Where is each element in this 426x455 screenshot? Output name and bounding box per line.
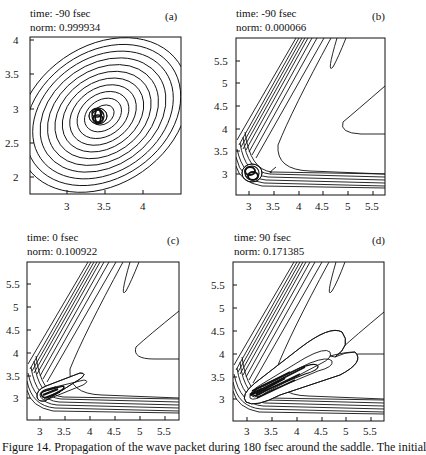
y-tick: 3.5 [211,372,225,383]
y-tick: 4.5 [211,326,225,337]
x-tick: 3 [244,426,250,437]
y-tick: 5.5 [211,280,225,291]
figure-caption: Figure 14. Propagation of the wave packe… [2,440,426,455]
x-tick: 4 [294,426,300,437]
y-tick: 5 [219,303,225,314]
x-tick: 4.5 [314,426,328,437]
x-tick: 3.5 [264,426,278,437]
x-tick: 5 [343,426,349,437]
y-tick: 3 [219,394,225,405]
y-tick: 4 [219,349,225,360]
x-tick: 5.5 [363,426,377,437]
